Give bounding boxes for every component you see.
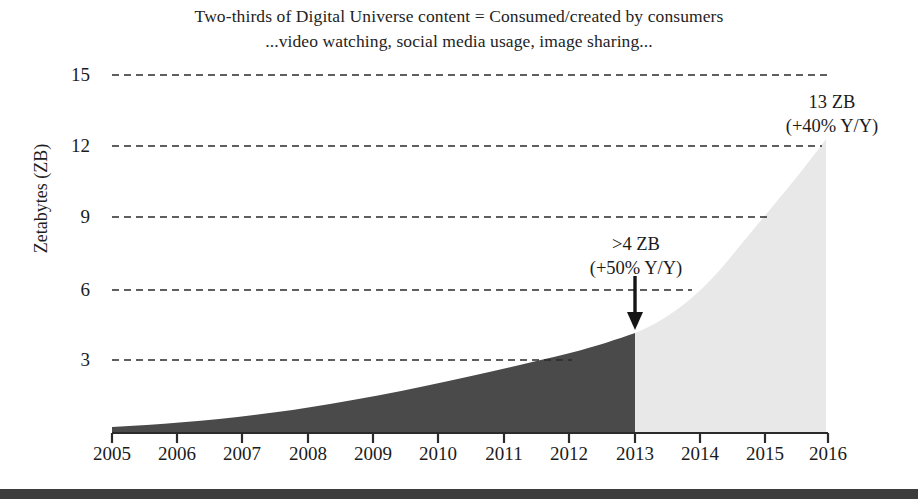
annotation-2013-value: >4 ZB (536, 232, 736, 256)
area-actual (112, 333, 635, 433)
chart-canvas: Two-thirds of Digital Universe content =… (0, 0, 918, 499)
annotation-2016-growth: (+40% Y/Y) (744, 114, 918, 138)
x-tick-label-2008: 2008 (273, 443, 343, 465)
x-axis-ticks (112, 433, 828, 443)
annotation-2013: >4 ZB (+50% Y/Y) (536, 232, 736, 280)
x-tick-label-2006: 2006 (142, 443, 212, 465)
area-forecast (635, 139, 826, 433)
x-tick-label-2012: 2012 (534, 443, 604, 465)
annotation-arrow-2013 (627, 276, 643, 330)
y-tick-label-15: 15 (48, 64, 90, 86)
y-tick-label-9: 9 (48, 206, 90, 228)
annotation-2016: 13 ZB (+40% Y/Y) (744, 90, 918, 138)
x-tick-label-2014: 2014 (665, 443, 735, 465)
y-tick-label-6: 6 (48, 279, 90, 301)
x-tick-label-2011: 2011 (469, 443, 539, 465)
annotation-2016-value: 13 ZB (744, 90, 918, 114)
y-tick-label-12: 12 (48, 135, 90, 157)
annotation-2013-growth: (+50% Y/Y) (536, 256, 736, 280)
x-tick-label-2005: 2005 (77, 443, 147, 465)
x-tick-label-2007: 2007 (207, 443, 277, 465)
bottom-border-band (0, 489, 918, 499)
x-tick-label-2010: 2010 (403, 443, 473, 465)
x-tick-label-2016: 2016 (793, 443, 863, 465)
x-tick-label-2013: 2013 (600, 443, 670, 465)
chart-plot-area (0, 0, 918, 499)
x-tick-label-2009: 2009 (338, 443, 408, 465)
x-tick-label-2015: 2015 (730, 443, 800, 465)
y-tick-label-3: 3 (48, 349, 90, 371)
